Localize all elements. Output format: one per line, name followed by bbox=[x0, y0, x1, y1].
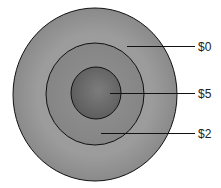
label-outer: $0 bbox=[198, 41, 211, 53]
label-middle: $2 bbox=[198, 128, 211, 140]
concentric-circles-diagram bbox=[0, 0, 221, 188]
label-inner: $5 bbox=[198, 88, 211, 100]
